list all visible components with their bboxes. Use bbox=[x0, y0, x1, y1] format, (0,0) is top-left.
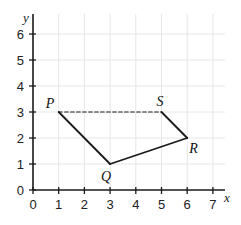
x-axis-label: x bbox=[223, 190, 230, 205]
grid-lines bbox=[33, 14, 225, 190]
x-tick-label: 2 bbox=[81, 197, 88, 212]
x-tick-label: 1 bbox=[55, 197, 62, 212]
x-tick-label: 4 bbox=[132, 197, 139, 212]
coordinate-grid-svg: x y 012345670123456 PQRS bbox=[0, 0, 241, 225]
x-tick-label: 6 bbox=[184, 197, 191, 212]
y-tick-label: 6 bbox=[17, 27, 24, 42]
y-tick-label: 4 bbox=[17, 79, 24, 94]
point-label-r: R bbox=[188, 141, 198, 156]
y-tick-label: 2 bbox=[17, 131, 24, 146]
segment-qr bbox=[110, 138, 187, 164]
x-tick-label: 0 bbox=[29, 197, 36, 212]
point-label-q: Q bbox=[101, 169, 111, 184]
coordinate-diagram: x y 012345670123456 PQRS bbox=[0, 0, 241, 225]
y-axis-label: y bbox=[21, 10, 29, 25]
y-tick-label: 1 bbox=[17, 157, 24, 172]
y-tick-label: 0 bbox=[17, 183, 24, 198]
y-tick-label: 3 bbox=[17, 105, 24, 120]
y-tick-label: 5 bbox=[17, 53, 24, 68]
point-labels: PQRS bbox=[45, 94, 199, 184]
point-label-p: P bbox=[45, 96, 55, 111]
x-tick-label: 7 bbox=[209, 197, 216, 212]
point-label-s: S bbox=[157, 94, 164, 109]
x-tick-label: 5 bbox=[158, 197, 165, 212]
segment-rs bbox=[162, 112, 188, 138]
x-tick-label: 3 bbox=[106, 197, 113, 212]
axis-ticks: 012345670123456 bbox=[17, 27, 217, 212]
